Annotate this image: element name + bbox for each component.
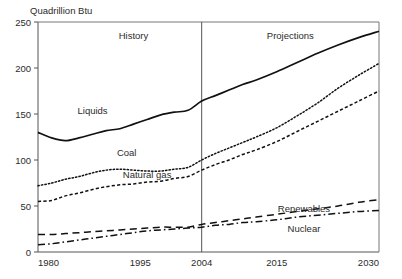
y-tick-label-200: 200: [15, 63, 31, 74]
chart-title: Quadrillion Btu: [30, 5, 92, 16]
y-tick-label-150: 150: [15, 109, 31, 120]
series-label-natural-gas: Natural gas: [123, 169, 172, 180]
projections-period-label: Projections: [267, 30, 314, 41]
y-tick-label-250: 250: [15, 17, 31, 28]
y-tick-label-0: 0: [26, 247, 31, 258]
x-tick-label-1980: 1980: [38, 257, 59, 268]
history-period-label: History: [119, 30, 149, 41]
y-tick-label-100: 100: [15, 155, 31, 166]
x-axis-ticks: 19801995200420152030: [38, 257, 379, 268]
series-label-liquids: Liquids: [78, 105, 108, 116]
energy-consumption-line-chart: 050100150200250 19801995200420152030 Liq…: [0, 0, 402, 279]
series-line-liquids: [38, 31, 379, 140]
series-line-nuclear: [38, 211, 379, 245]
series-label-renewables: Renewables: [278, 203, 331, 214]
x-tick-label-1995: 1995: [130, 257, 151, 268]
y-axis-ticks: 050100150200250: [15, 17, 38, 258]
chart-canvas: 050100150200250 19801995200420152030 Liq…: [0, 0, 402, 279]
plot-frame: [38, 22, 379, 252]
series-label-coal: Coal: [117, 147, 137, 158]
y-tick-label-50: 50: [20, 201, 31, 212]
x-tick-label-2030: 2030: [358, 257, 379, 268]
x-tick-label-2015: 2015: [266, 257, 287, 268]
x-tick-label-2004: 2004: [191, 257, 212, 268]
series-label-nuclear: Nuclear: [288, 223, 321, 234]
